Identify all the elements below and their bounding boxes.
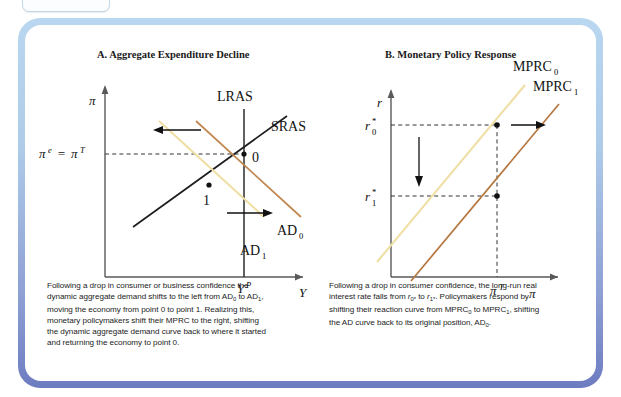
svg-text:e: e (48, 145, 52, 155)
curve-mprc1-label: MPRC 1 (533, 79, 578, 97)
ad-shift-right-arrow (227, 209, 273, 217)
panel-a-point-1-label: 1 (203, 193, 210, 208)
curve-mprc0-label: MPRC 0 (513, 59, 558, 77)
figure-frame: A. Aggregate Expenditure Decline B. Mone… (18, 18, 603, 388)
caption-a-line-4: monetary policymakers shift their MPRC t… (47, 316, 259, 325)
panel-b-point-r0-dot (494, 122, 500, 128)
panel-a-chart: π π e = π T LRAS SRAS AD 0 (31, 59, 331, 289)
curve-lras-label: LRAS (217, 89, 253, 104)
svg-text:r: r (365, 189, 371, 204)
caption-a-line-6: and returning the economy to point 0. (47, 338, 179, 347)
panel-b-point-r1-dot (494, 193, 500, 199)
cropped-top-chip (22, 0, 110, 12)
panel-a-y-axis-label: π (89, 93, 96, 108)
svg-text:0: 0 (554, 67, 558, 77)
svg-text:*: * (372, 116, 376, 126)
svg-text:AD: AD (277, 223, 297, 238)
svg-text:1: 1 (262, 251, 266, 261)
panel-b-y-tick-r0: r 0 * (365, 116, 376, 137)
caption-a-line-1: Following a drop in consumer or business… (47, 281, 249, 290)
figure-inner-panel: A. Aggregate Expenditure Decline B. Mone… (25, 25, 596, 381)
caption-panel-a: Following a drop in consumer or business… (47, 281, 305, 348)
curve-ad0-label: AD 0 (277, 223, 303, 241)
caption-a-line-5: the dynamic aggregate demand curve back … (47, 327, 266, 336)
panel-b-y-axis-label: r (377, 95, 383, 110)
svg-text:π: π (71, 146, 78, 161)
svg-text:=: = (57, 146, 66, 161)
caption-a-line-3: moving the economy from point 0 to point… (47, 305, 254, 314)
rate-fall-arrow (415, 137, 423, 187)
panel-b-axes (388, 89, 558, 280)
curve-mprc1 (411, 104, 559, 281)
caption-b-line-1: Following a drop in consumer confidence,… (329, 281, 537, 290)
panel-b-y-tick-r1: r 1 * (365, 187, 376, 208)
curve-mprc0 (377, 85, 525, 262)
svg-text:1: 1 (372, 198, 376, 208)
curve-sras-label: SRAS (271, 119, 306, 134)
svg-text:0: 0 (372, 127, 376, 137)
svg-text:1: 1 (574, 87, 578, 97)
mprc-shift-right-arrow (511, 121, 546, 129)
svg-text:MPRC: MPRC (513, 59, 552, 74)
svg-text:AD: AD (240, 243, 260, 258)
svg-text:π: π (39, 146, 46, 161)
panel-a-point-0-dot (241, 151, 246, 156)
svg-text:0: 0 (299, 231, 303, 241)
ad-shift-left-arrow (153, 126, 201, 134)
caption-panel-b: Following a drop in consumer confidence,… (329, 281, 591, 331)
svg-text:MPRC: MPRC (533, 79, 572, 94)
panel-a-point-1-dot (206, 182, 211, 187)
svg-text:*: * (372, 187, 376, 197)
panel-a-axes (102, 85, 303, 280)
panel-a-y-tick-label: π e = π T (39, 145, 86, 161)
svg-text:T: T (80, 145, 86, 155)
panel-a-point-0-label: 0 (252, 150, 259, 165)
panel-b-chart: r r 0 * r 1 * MPRC 0 (325, 59, 596, 289)
svg-text:r: r (365, 118, 371, 133)
